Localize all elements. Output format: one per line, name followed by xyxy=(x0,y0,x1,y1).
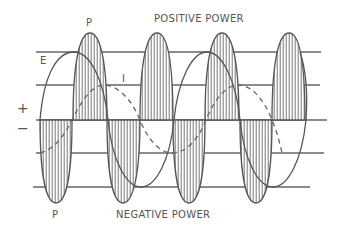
negative-power-lobe xyxy=(40,120,72,203)
voltage-label: E xyxy=(40,55,47,66)
positive-power-lobe xyxy=(73,33,107,120)
minus-sign: − xyxy=(17,120,29,136)
positive-power-lobe xyxy=(272,33,305,120)
current-label: I xyxy=(122,73,125,84)
power-curve xyxy=(40,33,305,203)
plus-sign: + xyxy=(17,100,29,116)
positive-power-lobe xyxy=(205,33,239,120)
positive-power-label: POSITIVE POWER xyxy=(154,13,244,24)
positive-power-lobe xyxy=(140,33,173,120)
negative-power-lobe xyxy=(240,120,272,203)
negative-power-label: NEGATIVE POWER xyxy=(116,209,210,220)
ac-power-diagram: P POSITIVE POWER E I + − P NEGATIVE POWE… xyxy=(0,0,342,235)
power-label-top: P xyxy=(86,17,92,28)
power-label-bottom: P xyxy=(52,209,58,220)
negative-power-lobe xyxy=(107,120,140,203)
